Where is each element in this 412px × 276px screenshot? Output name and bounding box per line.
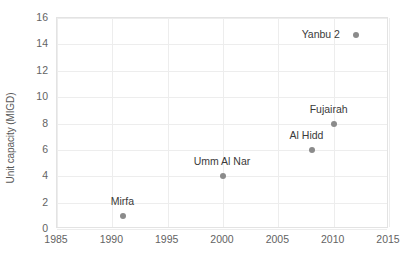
x-axis-tick-label: 2010 xyxy=(303,233,363,245)
plot-area xyxy=(56,17,388,228)
x-axis-tick-label: 2015 xyxy=(358,233,412,245)
data-point-label: Yanbu 2 xyxy=(302,28,340,40)
y-axis-tick-label: 2 xyxy=(4,196,48,208)
x-axis-tick-label: 1985 xyxy=(26,233,86,245)
x-axis-tick-label: 2000 xyxy=(192,233,252,245)
x-axis-tick-label: 2005 xyxy=(247,233,307,245)
y-axis-tick-label: 12 xyxy=(4,64,48,76)
gridline-horizontal xyxy=(57,97,387,98)
data-point-label: Fujairah xyxy=(310,103,348,115)
gridline-horizontal xyxy=(57,71,387,72)
gridline-vertical xyxy=(278,18,279,227)
x-axis-tick-label: 1990 xyxy=(81,233,141,245)
y-axis-tick-label: 6 xyxy=(4,143,48,155)
y-axis-tick-label: 14 xyxy=(4,37,48,49)
scatter-chart: Unit capacity (MIGD) 0246810121416 19851… xyxy=(0,0,412,276)
y-axis-tick-label: 4 xyxy=(4,169,48,181)
gridline-horizontal xyxy=(57,150,387,151)
data-point-marker[interactable] xyxy=(309,147,315,153)
gridline-vertical xyxy=(223,18,224,227)
data-point-marker[interactable] xyxy=(353,32,359,38)
gridline-horizontal xyxy=(57,124,387,125)
gridline-horizontal xyxy=(57,44,387,45)
gridline-horizontal xyxy=(57,18,387,19)
data-point-label: Umm Al Nar xyxy=(194,155,251,167)
y-axis-tick-label: 10 xyxy=(4,90,48,102)
y-axis-tick-label: 16 xyxy=(4,11,48,23)
gridline-horizontal xyxy=(57,203,387,204)
data-point-label: Al Hidd xyxy=(290,129,324,141)
data-point-label: Mirfa xyxy=(111,195,134,207)
data-point-marker[interactable] xyxy=(220,173,226,179)
gridline-horizontal xyxy=(57,229,387,230)
gridline-vertical xyxy=(57,18,58,227)
gridline-vertical xyxy=(168,18,169,227)
data-point-marker[interactable] xyxy=(120,213,126,219)
y-axis-tick-label: 8 xyxy=(4,117,48,129)
data-point-marker[interactable] xyxy=(331,121,337,127)
x-axis-tick-label: 1995 xyxy=(137,233,197,245)
gridline-vertical xyxy=(389,18,390,227)
